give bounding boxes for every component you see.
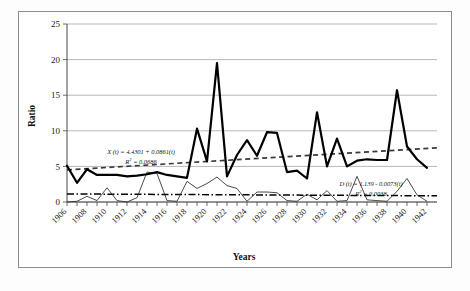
y-axis-ticks-group [63,24,67,202]
x-tick-label: 1924 [229,206,249,226]
y-tick-label: 10 [51,126,61,136]
x-tick-label: 1930 [289,206,308,225]
x-tick-label: 1934 [329,206,349,226]
x-tick-label: 1910 [89,206,108,225]
y-tick-label: 5 [56,162,61,172]
d-r2-annotation: R2 = 0.0038 [354,189,387,197]
x-tick-label: 1928 [269,206,288,225]
line-chart: 0510152025 19061908191019121914191619181… [19,12,450,266]
x-axis-ticks-group [67,202,427,206]
x-tick-label: 1942 [409,206,428,225]
x-tick-label: 1920 [189,206,208,225]
x-r2-value: = 0.0686 [132,158,158,165]
y-axis-tick-labels: 0510152025 [51,19,61,207]
x-tick-label: 1936 [349,206,368,225]
x-tick-label: 1916 [149,206,168,225]
figure-border: 0510152025 19061908191019121914191619181… [18,11,452,268]
x-tick-label: 1940 [389,206,408,225]
x-tick-label: 1918 [169,206,188,225]
x-tick-label: 1932 [309,206,328,225]
x-tick-label: 1922 [209,206,228,225]
x-tick-label: 1906 [49,206,68,225]
d-r2-value: = 0.0038 [362,190,388,197]
y-tick-label: 15 [51,90,61,100]
y-axis-title: Ratio [27,105,37,127]
x-equation-annotation: X (t) = 4.4301 + 0.0861(t) [106,148,175,156]
figure-container: 0510152025 19061908191019121914191619181… [0,0,470,291]
x-tick-label: 1926 [249,206,268,225]
d-equation-annotation: D (t) = 1.139 - 0.0073(t) [338,180,402,188]
y-tick-label: 20 [51,55,61,65]
x-ratio-series [67,63,427,183]
y-tick-label: 25 [51,19,61,29]
x-tick-label: 1938 [369,206,388,225]
x-r2-annotation: R2 = 0.0686 [124,157,157,165]
x-axis-title: Years [233,252,256,262]
x-tick-label: 1912 [109,206,128,225]
x-axis-tick-labels: 1906190819101912191419161918192019221924… [49,206,428,226]
x-tick-label: 1908 [69,206,88,225]
y-tick-label: 0 [56,197,61,207]
x-tick-label: 1914 [129,206,149,226]
